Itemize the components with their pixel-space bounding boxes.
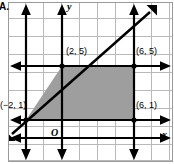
vertex-label-6-1: (6, 1) xyxy=(136,101,157,110)
origin-label: O xyxy=(51,128,58,138)
line-x-equals-neg2 xyxy=(21,4,31,160)
vertex-dot-6-1 xyxy=(131,117,136,122)
vertex-dot-neg2-1 xyxy=(23,117,28,122)
vertex-dot-2-5 xyxy=(59,63,64,68)
problem-label: A. xyxy=(0,1,9,12)
y-axis-label: y xyxy=(67,2,71,12)
x-axis xyxy=(10,133,171,143)
vertex-label-6-5: (6, 5) xyxy=(136,47,157,56)
figure-graphics xyxy=(0,0,174,164)
x-axis-label: x xyxy=(162,130,167,140)
coordinate-plane-figure: A. (2, 5) (6, 5) (−2, 1) (6, 1) O x y xyxy=(0,0,174,164)
vertex-label-2-5: (2, 5) xyxy=(66,47,87,56)
vertex-dot-6-5 xyxy=(131,63,136,68)
vertex-label-neg2-1: (−2, 1) xyxy=(0,101,26,110)
